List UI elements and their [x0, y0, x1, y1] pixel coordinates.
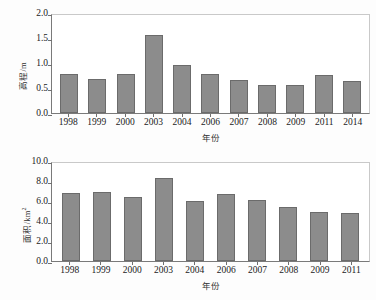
- chart-elevation: 高程/m 0.00.51.01.52.0 1998199920002003200…: [0, 2, 376, 150]
- bar: [117, 74, 135, 113]
- bar: [88, 79, 106, 113]
- x-tick: 2006: [210, 262, 241, 276]
- y-tick-label: 4.0: [36, 217, 48, 227]
- y-axis-title-text: 面积/km: [22, 210, 32, 242]
- x-tick: 2007: [225, 114, 253, 128]
- bar: [258, 85, 276, 113]
- bar-column: [55, 163, 86, 261]
- x-tick-label: 1998: [59, 118, 78, 128]
- y-tick-mark: [48, 163, 52, 164]
- x-tick: 2003: [148, 262, 179, 276]
- chart-area: 面积/km2 0.02.04.06.08.010.0 1998199920002…: [0, 150, 376, 300]
- x-tick-label: 2014: [343, 118, 362, 128]
- y-tick-mark: [48, 40, 52, 41]
- bar: [124, 197, 142, 261]
- bar: [217, 194, 235, 261]
- x-tick-label: 1998: [60, 266, 79, 276]
- x-tick-label: 2004: [185, 266, 204, 276]
- bar: [341, 213, 359, 262]
- bar-column: [55, 15, 83, 113]
- bar-series-area: [52, 163, 369, 261]
- bar: [286, 85, 304, 113]
- x-tick-label: 2008: [258, 118, 277, 128]
- y-axis-unit-superscript: 2: [21, 207, 27, 210]
- bar: [62, 193, 80, 261]
- y-tick-label: 0.5: [36, 84, 48, 94]
- x-tick: 2011: [310, 114, 338, 128]
- bar: [201, 74, 219, 113]
- y-tick-mark: [48, 15, 52, 16]
- x-tick: 2009: [304, 262, 335, 276]
- y-axis-title-text: 高程/m: [18, 62, 28, 90]
- x-tick-label: 2006: [217, 266, 236, 276]
- bar: [60, 74, 78, 113]
- x-tick-label: 2000: [116, 118, 135, 128]
- y-tick-mark: [48, 183, 52, 184]
- x-tick-label: 2007: [229, 118, 248, 128]
- bar-column: [196, 15, 224, 113]
- plot-area-area: [51, 162, 370, 262]
- x-tick: 1999: [85, 262, 116, 276]
- x-tick-label: 2000: [123, 266, 142, 276]
- bar-column: [112, 15, 140, 113]
- x-tick: 1998: [54, 114, 82, 128]
- x-tick-label: 2006: [201, 118, 220, 128]
- x-tick: 1999: [82, 114, 110, 128]
- x-tick-label: 2003: [154, 266, 173, 276]
- x-tick-label: 2011: [342, 266, 361, 276]
- bar-column: [304, 163, 335, 261]
- y-axis-title-elevation: 高程/m: [16, 62, 28, 90]
- x-tick-label: 2007: [248, 266, 267, 276]
- x-tick-label: 2003: [144, 118, 163, 128]
- x-axis-title-elevation: 年份: [51, 131, 370, 143]
- x-tick-label: 2008: [279, 266, 298, 276]
- x-tick: 2004: [168, 114, 196, 128]
- x-tick: 2008: [253, 114, 281, 128]
- x-tick: 2006: [196, 114, 224, 128]
- x-tick-label: 2004: [173, 118, 192, 128]
- x-tick-label: 2009: [311, 266, 330, 276]
- y-tick-mark: [48, 243, 52, 244]
- x-tick: 2004: [179, 262, 210, 276]
- bar-column: [338, 15, 366, 113]
- bar: [315, 75, 333, 113]
- y-tick-mark: [48, 223, 52, 224]
- y-tick-mark: [48, 90, 52, 91]
- bar-column: [83, 15, 111, 113]
- bar: [310, 212, 328, 261]
- y-tick-mark: [48, 203, 52, 204]
- bar: [186, 201, 204, 261]
- x-tick: 2014: [339, 114, 367, 128]
- bar-column: [273, 163, 304, 261]
- y-tick-label: 8.0: [36, 177, 48, 187]
- x-tick: 2011: [336, 262, 367, 276]
- bar: [279, 207, 297, 261]
- x-tick: 2007: [242, 262, 273, 276]
- y-tick-label: 2.0: [36, 237, 48, 247]
- y-tick-label: 2.0: [36, 9, 48, 19]
- bar-column: [168, 15, 196, 113]
- x-axis-tick-labels-elevation: 1998199920002003200420062007200820092011…: [51, 114, 370, 128]
- x-tick-label: 2011: [315, 118, 334, 128]
- x-tick: 1998: [54, 262, 85, 276]
- bar-column: [148, 163, 179, 261]
- bar: [343, 81, 361, 113]
- bar-column: [117, 163, 148, 261]
- bar-column: [225, 15, 253, 113]
- bar: [145, 35, 163, 113]
- x-tick: 2003: [139, 114, 167, 128]
- x-tick-label: 1999: [87, 118, 106, 128]
- y-tick-label: 0.0: [36, 109, 48, 119]
- bar-column: [242, 163, 273, 261]
- bar-column: [253, 15, 281, 113]
- y-tick-label: 0.0: [36, 257, 48, 267]
- bar-column: [86, 163, 117, 261]
- x-tick-label: 1999: [91, 266, 110, 276]
- bar-column: [140, 15, 168, 113]
- y-tick-mark: [48, 65, 52, 66]
- x-tick-label: 2009: [286, 118, 305, 128]
- figure-two-bar-charts: 高程/m 0.00.51.01.52.0 1998199920002003200…: [0, 0, 376, 300]
- bar-column: [335, 163, 366, 261]
- bar: [230, 80, 248, 113]
- bar-series-elevation: [52, 15, 369, 113]
